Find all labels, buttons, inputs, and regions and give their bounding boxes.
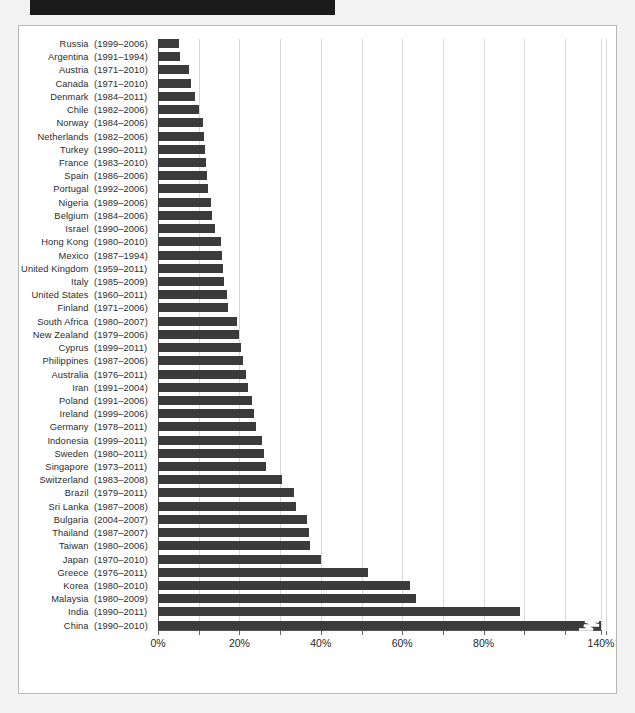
- bar-category-name: Switzerland: [39, 475, 88, 485]
- bar-row: Bulgaria (2004–2007): [158, 515, 601, 524]
- bar-row: Sweden (1980–2011): [158, 449, 601, 458]
- axis-break-zigzag-icon: [575, 617, 603, 634]
- bar-category-period: (1990–2006): [94, 224, 158, 234]
- bar-category-name: France: [59, 158, 89, 168]
- bar: [158, 555, 321, 564]
- bar: [158, 39, 179, 48]
- bar: [158, 290, 227, 299]
- bar-row-label: Turkey (1990–2011): [60, 145, 158, 155]
- bar: [158, 343, 241, 352]
- bar-row: Germany (1978–2011): [158, 422, 601, 431]
- x-axis-tick: [565, 631, 566, 635]
- bar: [158, 396, 252, 405]
- bar-row-label: South Africa (1980–2007): [37, 317, 158, 327]
- bar-category-name: Iran: [72, 383, 88, 393]
- bar: [158, 607, 520, 616]
- bar-row: Canada (1971–2010): [158, 79, 601, 88]
- bar-category-period: (1991–1994): [94, 52, 158, 62]
- bar-category-name: Bulgaria: [54, 515, 89, 525]
- bar: [158, 475, 282, 484]
- bar-row: Brazil (1979–2011): [158, 488, 601, 497]
- bar-category-period: (1984–2006): [94, 118, 158, 128]
- bar-category-period: (1984–2006): [94, 211, 158, 221]
- bar-category-name: Finland: [57, 303, 88, 313]
- bar-row: Belgium (1984–2006): [158, 211, 601, 220]
- bar: [158, 118, 203, 127]
- bar-category-period: (1999–2006): [94, 39, 158, 49]
- bar-row-label: New Zealand (1979–2006): [33, 330, 158, 340]
- bar: [158, 383, 248, 392]
- bar-row-label: Nigeria (1989–2006): [58, 198, 158, 208]
- bar-row-label: Norway (1984–2006): [57, 118, 159, 128]
- bar-category-period: (1979–2011): [94, 488, 158, 498]
- bar-row-label: Thailand (1987–2007): [52, 528, 158, 538]
- bar-row: Poland (1991–2006): [158, 396, 601, 405]
- x-axis-tick: [402, 631, 403, 635]
- bar: [158, 303, 228, 312]
- bar-category-period: (2004–2007): [94, 515, 158, 525]
- gridline: [606, 39, 607, 630]
- bar-category-name: Taiwan: [59, 541, 89, 551]
- bar-row-label: China (1990–2010): [64, 621, 158, 631]
- bar-row: India (1990–2011): [158, 607, 601, 616]
- bar-row-label: Argentina (1991–1994): [48, 52, 158, 62]
- bar-row-label: Switzerland (1983–2008): [39, 475, 158, 485]
- bar-category-period: (1989–2006): [94, 198, 158, 208]
- bar-category-name: Australia: [52, 370, 89, 380]
- bar: [158, 502, 296, 511]
- bar: [158, 330, 239, 339]
- bar-row-label: Taiwan (1980–2006): [59, 541, 158, 551]
- bar-row: Mexico (1987–1994): [158, 251, 601, 260]
- bar-category-name: Israel: [65, 224, 88, 234]
- bar-category-name: Russia: [60, 39, 89, 49]
- bar: [158, 436, 262, 445]
- bar-category-period: (1999–2011): [94, 343, 158, 353]
- bar-row: Malaysia (1980–2009): [158, 594, 601, 603]
- bar-row: Singapore (1973–2011): [158, 462, 601, 471]
- bar-row-label: Mexico (1987–1994): [59, 251, 158, 261]
- bar-row: Chile (1982–2006): [158, 105, 601, 114]
- bar-row-label: Australia (1976–2011): [52, 370, 158, 380]
- bar-row: Austria (1971–2010): [158, 65, 601, 74]
- bar: [158, 621, 601, 630]
- bar: [158, 277, 224, 286]
- x-axis-tick: [362, 631, 363, 635]
- x-axis-tick: [158, 631, 159, 635]
- bar-row-label: Greece (1976–2011): [58, 568, 158, 578]
- bar-category-name: Portugal: [53, 184, 88, 194]
- bar-row-label: Russia (1999–2006): [60, 39, 158, 49]
- bar-row: Denmark (1984–2011): [158, 92, 601, 101]
- bar-category-name: India: [68, 607, 89, 617]
- bar-category-period: (1976–2011): [94, 568, 158, 578]
- bar-row-label: Korea (1980–2010): [63, 581, 158, 591]
- x-axis-tick: [280, 631, 281, 635]
- bar-category-name: Denmark: [50, 92, 88, 102]
- bar-row: Nigeria (1989–2006): [158, 198, 601, 207]
- bar-row-label: Cyprus (1999–2011): [59, 343, 158, 353]
- bar: [158, 370, 246, 379]
- bar-category-period: (1959–2011): [94, 264, 158, 274]
- bar-category-period: (1999–2006): [94, 409, 158, 419]
- bar-category-period: (1978–2011): [94, 422, 158, 432]
- bar-category-period: (1976–2011): [94, 370, 158, 380]
- redacted-title-block: [30, 0, 335, 15]
- bar-category-name: Argentina: [48, 52, 89, 62]
- bar: [158, 422, 256, 431]
- bar-category-period: (1980–2007): [94, 317, 158, 327]
- x-axis-tick: [239, 631, 240, 635]
- bar-category-period: (1991–2004): [94, 383, 158, 393]
- bar-row-label: Indonesia (1999–2011): [47, 436, 158, 446]
- x-axis-tick-label: 40%: [291, 637, 351, 649]
- x-axis-tick-label: 0%: [128, 637, 188, 649]
- bar-category-period: (1990–2010): [94, 621, 158, 631]
- bar: [158, 541, 310, 550]
- bar-row: Japan (1970–2010): [158, 555, 601, 564]
- bar: [158, 594, 416, 603]
- bar-row: Turkey (1990–2011): [158, 145, 601, 154]
- bar-category-period: (1987–2008): [94, 502, 158, 512]
- bar: [158, 184, 208, 193]
- bar-row: Thailand (1987–2007): [158, 528, 601, 537]
- bar-row-label: India (1990–2011): [68, 607, 158, 617]
- x-axis-tick: [199, 631, 200, 635]
- bar-row-label: Chile (1982–2006): [67, 105, 158, 115]
